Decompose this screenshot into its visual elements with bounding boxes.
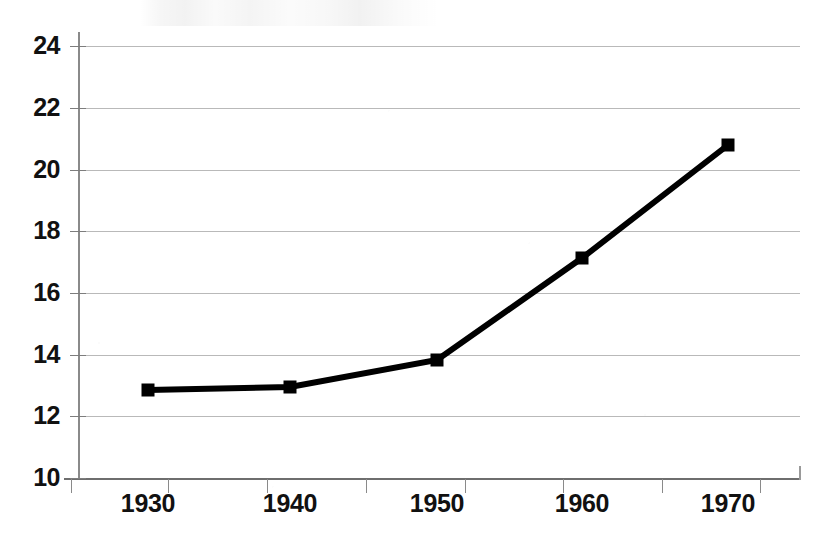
y-axis-label-24: 24 — [8, 33, 60, 58]
gridline-14 — [78, 355, 800, 356]
plot-area — [78, 46, 800, 478]
x-axis-label-1940: 1940 — [230, 489, 350, 517]
line-chart: 24 22 20 18 16 14 12 10 1930 1940 1950 1… — [0, 0, 827, 553]
gridline-22 — [78, 108, 800, 109]
y-axis-labels: 24 22 20 18 16 14 12 10 — [0, 0, 60, 553]
x-axis-line — [64, 478, 801, 480]
y-tick-22 — [70, 108, 86, 109]
y-tick-20 — [70, 170, 86, 171]
gridline-18 — [78, 231, 800, 232]
gridline-24 — [78, 46, 800, 47]
y-axis-line — [78, 32, 80, 480]
y-tick-16 — [70, 293, 86, 294]
x-axis-label-1970: 1970 — [668, 489, 788, 517]
x-axis-label-1960: 1960 — [522, 489, 642, 517]
gridline-16 — [78, 293, 800, 294]
y-axis-label-16: 16 — [8, 280, 60, 305]
y-axis-label-12: 12 — [8, 403, 60, 428]
x-tick-0 — [71, 479, 72, 493]
x-axis-label-1950: 1950 — [377, 489, 497, 517]
y-axis-label-22: 22 — [8, 95, 60, 120]
y-axis-label-20: 20 — [8, 157, 60, 182]
x-tick-3 — [366, 479, 367, 493]
y-tick-24 — [70, 46, 86, 47]
y-tick-12 — [70, 416, 86, 417]
y-tick-10 — [70, 478, 86, 479]
x-axis-label-1930: 1930 — [88, 489, 208, 517]
y-axis-label-14: 14 — [8, 342, 60, 367]
y-tick-18 — [70, 231, 86, 232]
y-axis-label-10: 10 — [8, 465, 60, 490]
x-axis-end-cap — [799, 466, 801, 480]
y-tick-14 — [70, 355, 86, 356]
y-axis-label-18: 18 — [8, 218, 60, 243]
gridline-20 — [78, 170, 800, 171]
gridline-12 — [78, 416, 800, 417]
x-tick-6 — [662, 479, 663, 493]
